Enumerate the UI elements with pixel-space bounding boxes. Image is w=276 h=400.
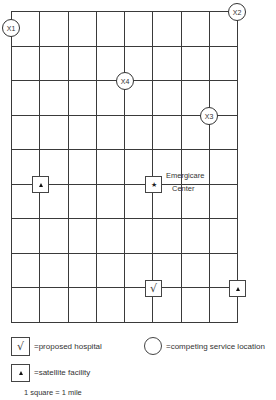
competing-location-x2: X2 (228, 3, 246, 21)
marker-label: X3 (205, 113, 214, 120)
grid-horizontal-line (11, 11, 238, 12)
check-icon: √ (150, 283, 157, 294)
grid-vertical-line (68, 11, 69, 323)
legend-scale-text: 1 square = 1 mile (24, 388, 82, 397)
triangle-icon (19, 371, 23, 375)
grid-horizontal-line (11, 218, 238, 219)
grid-horizontal-line (11, 46, 238, 47)
marker-label: X1 (7, 25, 16, 32)
marker-label: X4 (121, 78, 130, 85)
emergicare-center-marker: ★ (145, 176, 162, 193)
grid-horizontal-line (11, 322, 238, 323)
legend-proposed-hospital-symbol: √ (11, 337, 30, 356)
emergicare-label-line1: Emergicare (166, 171, 204, 180)
emergicare-label-line2: Center (172, 184, 195, 193)
legend-competing-location-text: =competing service location (166, 342, 265, 351)
triangle-icon (236, 287, 240, 291)
competing-location-x1: X1 (2, 19, 20, 37)
grid-vertical-line (152, 11, 153, 323)
grid-vertical-line (181, 11, 182, 323)
star-icon: ★ (151, 181, 157, 188)
satellite-facility-west (32, 176, 49, 193)
grid-vertical-line (237, 11, 238, 323)
grid-vertical-line (11, 11, 12, 323)
legend-competing-location-symbol (144, 337, 162, 355)
legend-proposed-hospital-text: =proposed hospital (34, 342, 102, 351)
proposed-hospital-marker: √ (145, 280, 162, 297)
legend-satellite-facility-text: =satellite facility (34, 368, 90, 377)
grid-vertical-line (124, 11, 125, 323)
grid-horizontal-line (11, 287, 238, 288)
check-icon: √ (17, 341, 24, 352)
location-map-diagram: X1 X2 X3 X4 ★ Emergicare Center √ √ =pro… (0, 0, 276, 400)
marker-label: X2 (233, 9, 242, 16)
satellite-facility-east (229, 280, 246, 297)
grid-horizontal-line (11, 149, 238, 150)
triangle-icon (39, 183, 43, 187)
competing-location-x4: X4 (116, 72, 134, 90)
grid-vertical-line (39, 11, 40, 323)
competing-location-x3: X3 (200, 107, 218, 125)
grid-vertical-line (209, 11, 210, 323)
legend-satellite-facility-symbol (11, 364, 30, 382)
grid-vertical-line (96, 11, 97, 323)
grid-horizontal-line (11, 253, 238, 254)
